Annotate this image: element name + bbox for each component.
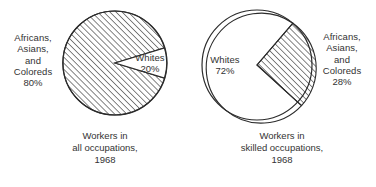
slice-label-nonwhite-80: Africans, Asians, and Coloreds 80%	[2, 32, 64, 88]
pie-chart-figure: Africans, Asians, and Coloreds 80% White…	[0, 0, 376, 187]
chart-caption-all-occupations: Workers in all occupations, 1968	[44, 130, 166, 166]
slice-label-whites-20: Whites 20%	[124, 52, 176, 75]
chart-panel-all-occupations: Africans, Asians, and Coloreds 80% White…	[0, 0, 188, 187]
slice-label-whites-72: Whites 72%	[198, 54, 252, 77]
chart-panel-skilled-occupations: Whites 72% Africans, Asians, and Colored…	[188, 0, 376, 187]
chart-caption-skilled-occupations: Workers in skilled occupations, 1968	[200, 130, 364, 166]
slice-label-nonwhite-28: Africans, Asians, and Coloreds 28%	[310, 31, 374, 87]
